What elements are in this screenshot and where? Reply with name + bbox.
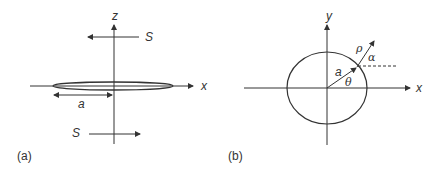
alpha-label: α	[368, 51, 376, 64]
radius-label: a	[78, 97, 85, 111]
z-axis-label: z	[111, 9, 118, 23]
rho-label: ρ	[355, 42, 363, 55]
figure-canvas: z x S S a (a) y x a θ ρ α (b)	[0, 0, 442, 171]
caption-a: (a)	[17, 149, 32, 163]
radius-label: a	[335, 65, 342, 79]
x-axis-label: x	[415, 81, 423, 95]
y-axis-label: y	[325, 9, 333, 23]
panel-b: y x a θ ρ α (b)	[228, 9, 423, 163]
x-axis-label: x	[200, 79, 208, 93]
top-s-label: S	[145, 30, 153, 44]
theta-label: θ	[345, 76, 352, 89]
caption-b: (b)	[228, 149, 243, 163]
bottom-s-label: S	[72, 126, 80, 140]
panel-a: z x S S a (a)	[17, 9, 208, 163]
